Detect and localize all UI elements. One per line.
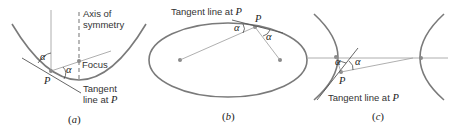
reflective-property-diagram: α α P Axis of symmetry Focus Tangent lin… [0,0,456,127]
panel-a-parabola: α α P Axis of symmetry Focus Tangent lin… [12,8,146,126]
axis-label-line2: symmetry [83,19,124,30]
hyperbola-right-branch [420,14,444,100]
panel-b-ellipse: α α P Tangent line at P (b) [149,6,307,123]
point-p-label: P [254,13,262,24]
angle-alpha-left: α [234,22,240,33]
point-p [49,69,53,73]
focal-ray-right [341,58,413,72]
angle-alpha-left: α [335,56,341,67]
caption-b: (b) [222,110,235,123]
tangent-line [22,58,81,93]
tangent-label-line1: Tangent [83,83,117,94]
angle-alpha-right: α [266,31,272,42]
angle-arc-right [349,61,353,70]
point-p-label: P [338,75,346,86]
axis-label-line1: Axis of [83,8,112,19]
focus-right [419,56,423,60]
tangent-label-line2: line at P [83,94,118,105]
angle-alpha-lower: α [66,64,72,75]
focus-label: Focus [82,59,108,70]
ellipse-curve [149,23,307,97]
angle-alpha-upper: α [40,51,46,62]
focus-point [77,59,81,63]
angle-alpha-right: α [355,56,361,67]
tangent-label: Tangent line at P [171,6,242,17]
caption-c: (c) [372,110,384,123]
point-p-label: P [43,75,51,86]
caption-a: (a) [68,113,81,126]
panel-c-hyperbola: α α P Tangent line at P (c) [308,14,448,123]
tangent-label: Tangent line at P [328,92,399,103]
